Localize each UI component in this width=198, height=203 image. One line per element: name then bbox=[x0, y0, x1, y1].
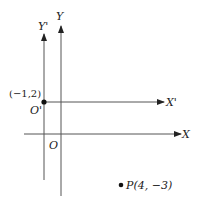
coordinate-diagram: Y Y' X' X (−1,2) O' O P(4, −3) bbox=[0, 0, 198, 203]
new-origin-label: O' bbox=[30, 104, 42, 117]
point-p-label: P(4, −3) bbox=[125, 179, 172, 192]
x-axis-label: X bbox=[181, 128, 191, 141]
origin-label: O bbox=[49, 139, 58, 152]
x-prime-axis-label: X' bbox=[165, 96, 177, 109]
y-axis-label: Y bbox=[56, 10, 65, 23]
new-origin-coords-label: (−1,2) bbox=[9, 88, 41, 99]
y-prime-axis-label: Y' bbox=[38, 20, 48, 33]
point-p bbox=[119, 183, 124, 188]
new-origin-point bbox=[41, 99, 46, 104]
